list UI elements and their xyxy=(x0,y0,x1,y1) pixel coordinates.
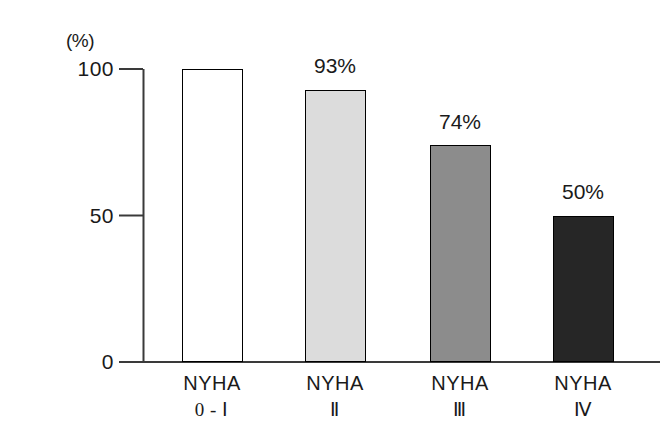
bar-chart-figure: β1受容体mRNA (%) 100 50 0 93% 74% 50% NYHA … xyxy=(0,0,670,435)
x-label-nyha-3-sub: Ⅲ xyxy=(395,397,525,423)
x-label-nyha-0-1-sub: 0 - Ⅰ xyxy=(147,397,277,423)
bar-nyha-3 xyxy=(430,145,491,362)
x-label-nyha-4-sub: Ⅳ xyxy=(518,397,648,423)
x-label-nyha-0-1: NYHA 0 - Ⅰ xyxy=(147,370,277,423)
x-label-nyha-4-main: NYHA xyxy=(518,370,648,397)
x-label-nyha-4: NYHA Ⅳ xyxy=(518,370,648,423)
value-label-nyha-2: 93% xyxy=(285,55,385,76)
value-label-nyha-3: 74% xyxy=(410,111,510,132)
bar-nyha-0-1 xyxy=(182,69,243,362)
x-label-nyha-3-main: NYHA xyxy=(395,370,525,397)
x-label-nyha-2-main: NYHA xyxy=(270,370,400,397)
x-label-nyha-2: NYHA Ⅱ xyxy=(270,370,400,423)
bar-nyha-2 xyxy=(305,90,366,363)
bar-nyha-4 xyxy=(553,216,614,363)
x-label-nyha-3: NYHA Ⅲ xyxy=(395,370,525,423)
value-label-nyha-4: 50% xyxy=(533,181,633,202)
x-label-nyha-0-1-main: NYHA xyxy=(147,370,277,397)
x-label-nyha-2-sub: Ⅱ xyxy=(270,397,400,423)
